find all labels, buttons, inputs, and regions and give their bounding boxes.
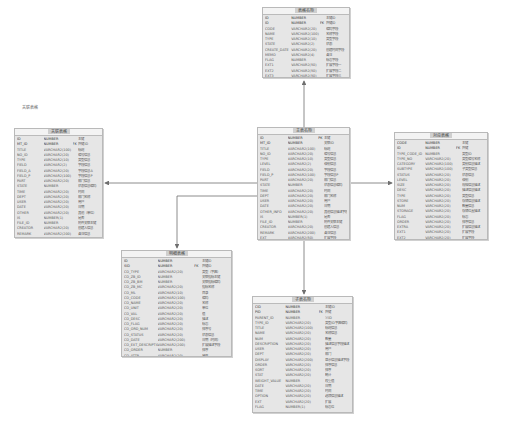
column-key (194, 354, 201, 358)
entity-title-text: 关联表格 (48, 129, 70, 134)
entity-rows: CODENUMBER主键IDNUMBERFK外键TYPE_CODE_IDNUMB… (395, 140, 487, 240)
entity-title: 关联表格 (15, 129, 102, 136)
entity-column-row[interactable]: CO_ATTRVARCHAR2(20)属性 (124, 354, 229, 358)
column-type: NUMBER(1) (285, 405, 318, 410)
entity-title-text: 子表名称 (292, 297, 314, 302)
entity-rows: IDNUMBERPK主键MT_IDNUMBER关联IDTITLEVARCHAR2… (258, 135, 349, 240)
column-type: VARCHAR2(20) (425, 236, 456, 241)
relation-center-bottom-left (177, 196, 257, 248)
entity-title-text: 主表名称 (293, 128, 315, 133)
column-type: VARCHAR2(50) (44, 237, 73, 238)
column-type: VARCHAR2(20) (158, 354, 195, 358)
column-name: EXT2 (397, 236, 425, 241)
entity-column-row[interactable]: EXT3VARCHAR2(50)扩展字段三 (265, 74, 347, 78)
column-type: VARCHAR2(50) (288, 236, 318, 240)
entity-title: 子表名称 (253, 297, 352, 304)
column-name: EXT3 (265, 74, 291, 78)
entity-title: 明细表格 (122, 251, 231, 258)
column-name: EXT (260, 236, 288, 240)
column-comment: 扩展字段 (324, 236, 347, 240)
entity-title-text: 表格名称 (295, 8, 317, 13)
entity-bottom-center[interactable]: 子表名称CIDNUMBER主键IDPIDNUMBERFK外键PARENT_IDN… (252, 296, 353, 413)
entity-bottom-left[interactable]: 明细表格IDNUMBER主键IDSIDNUMBERFK外键IDCO_TYPEVA… (121, 250, 232, 357)
column-comment: 扩展字段三 (326, 74, 347, 78)
column-type: VARCHAR2(50) (291, 74, 320, 78)
column-name: FLAG (255, 405, 285, 410)
column-key (319, 405, 326, 410)
entity-title: 主表名称 (258, 128, 349, 135)
entity-rows: IDNUMBER主键IDSIDNUMBERFK外键IDCO_TYPEVARCHA… (122, 258, 231, 357)
entity-title-text: 对应表格 (430, 133, 452, 138)
column-name: EXT (17, 237, 44, 238)
entity-rows: CIDNUMBER主键IDPIDNUMBERFK外键PARENT_IDNUMBE… (253, 304, 352, 410)
entity-column-row[interactable]: EXT2VARCHAR2(20)扩展字段 (397, 236, 485, 241)
column-name: CO_ATTR (124, 354, 158, 358)
column-comment: 标志位 (325, 405, 350, 410)
column-comment: 属性 (202, 354, 229, 358)
entity-rows: IDNUMBER主键IDIDNUMBERFK外键IDCODEVARCHAR2(2… (263, 15, 349, 78)
entity-left[interactable]: 关联表格IDNUMBER主键MT_IDNUMBERFK外键IDTITLEVARC… (14, 128, 103, 238)
entity-column-row[interactable]: FLAGNUMBER(1)标志位 (255, 405, 350, 410)
entity-column-row[interactable]: EXTVARCHAR2(50)扩展字段 (260, 236, 347, 240)
entity-top[interactable]: 表格名称IDNUMBER主键IDIDNUMBERFK外键IDCODEVARCHA… (262, 7, 350, 78)
entity-title-text: 明细表格 (166, 251, 188, 256)
entity-column-row[interactable]: EXTVARCHAR2(50)扩展字段 (17, 237, 100, 238)
entity-title: 对应表格 (395, 133, 487, 140)
entity-right[interactable]: 对应表格CODENUMBER主键IDNUMBERFK外键TYPE_CODE_ID… (394, 132, 488, 240)
entity-rows: IDNUMBER主键MT_IDNUMBERFK外键IDTITLEVARCHAR2… (15, 136, 102, 238)
entity-title: 表格名称 (263, 8, 349, 15)
er-diagram-canvas: 关联表格 表格名称IDNUMBER主键IDIDNUMBERFK外键IDCODEV… (0, 0, 505, 421)
entity-center[interactable]: 主表名称IDNUMBERPK主键MT_IDNUMBER关联IDTITLEVARC… (257, 127, 350, 240)
floating-label: 关联表格 (22, 104, 38, 110)
column-comment: 扩展字段 (78, 237, 100, 238)
column-comment: 扩展字段 (462, 236, 485, 241)
